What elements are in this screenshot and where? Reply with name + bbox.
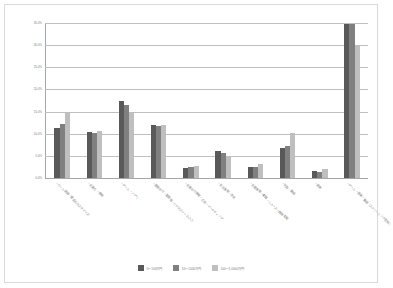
y-axis-tick-label: 15.0% xyxy=(34,110,42,114)
x-axis-labels: ・ホーム画面・壁紙のカスタマイズ・企業の・情報・ゲーム・アプリ・業務向け・業務用… xyxy=(46,180,369,268)
bar-group xyxy=(271,23,303,178)
x-axis-tick-label: ・ゲーム・アプリ xyxy=(119,180,139,200)
bar-group xyxy=(110,23,142,178)
y-axis-tick-label: 0.0% xyxy=(35,176,42,180)
y-axis-tick-label: 5.0% xyxy=(35,154,42,158)
legend-swatch xyxy=(138,265,144,271)
legend-label: 0〜100万円 xyxy=(147,266,163,271)
bar-group xyxy=(336,23,368,178)
gridline xyxy=(45,178,368,179)
bar xyxy=(161,125,166,178)
x-axis-tick-label: ・ゲーム・音楽・動画（ストリーミング配信） xyxy=(345,180,392,227)
x-axis-tick-label: ・生活情報・天気 xyxy=(216,180,236,200)
legend-swatch xyxy=(212,265,218,271)
x-axis-tick-label: ・写真・動画 xyxy=(281,180,297,196)
y-axis-tick-label: 10.0% xyxy=(34,132,42,136)
x-axis-tick-label: ・企業の・情報 xyxy=(87,180,105,198)
bar xyxy=(322,169,327,178)
y-axis-tick-label: 20.0% xyxy=(34,87,42,91)
bar xyxy=(258,164,263,178)
bar-group xyxy=(175,23,207,178)
y-axis-tick-label: 30.0% xyxy=(34,43,42,47)
bar-group xyxy=(304,23,336,178)
plot-area: 0.0%5.0%10.0%15.0%20.0%25.0%30.0%35.0% xyxy=(45,23,368,178)
bar-groups xyxy=(46,23,368,178)
bar xyxy=(65,113,70,178)
bar xyxy=(355,46,360,178)
legend-item[interactable]: 0〜100万円 xyxy=(138,265,162,271)
bar-group xyxy=(239,23,271,178)
bar xyxy=(97,131,102,178)
x-axis-tick-label: ・ホーム画面・壁紙のカスタマイズ xyxy=(55,180,92,217)
bar-group xyxy=(143,23,175,178)
y-axis-tick-label: 35.0% xyxy=(34,21,42,25)
chart-legend: 0〜100万円10〜1000万円100〜1,0000万円 xyxy=(5,265,377,271)
legend-item[interactable]: 100〜1,0000万円 xyxy=(212,265,244,271)
bar xyxy=(194,166,199,178)
bar xyxy=(129,113,134,178)
legend-label: 100〜1,0000万円 xyxy=(220,266,243,271)
y-axis-tick-label: 25.0% xyxy=(34,65,42,69)
legend-swatch xyxy=(173,265,179,271)
x-axis-tick-label: ・音楽 xyxy=(313,180,323,190)
bar xyxy=(226,156,231,178)
bar-group xyxy=(46,23,78,178)
bar xyxy=(290,133,295,178)
legend-label: 10〜1000万円 xyxy=(182,266,201,271)
bar-group xyxy=(78,23,110,178)
legend-item[interactable]: 10〜1000万円 xyxy=(173,265,201,271)
bar-group xyxy=(207,23,239,178)
chart-frame: 0.0%5.0%10.0%15.0%20.0%25.0%30.0%35.0% ・… xyxy=(4,4,378,283)
